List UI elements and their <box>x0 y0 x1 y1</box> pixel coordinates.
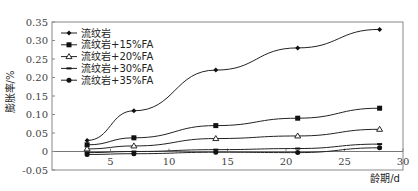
legend-label: 流纹岩+35%FA <box>81 74 153 86</box>
y-tick-label: 0 <box>42 146 48 157</box>
y-tick-label: 0.10 <box>26 109 48 120</box>
legend-item: 流纹岩+15%FA <box>61 38 153 50</box>
y-tick-label: 0.35 <box>26 17 48 28</box>
x-tick-label: 10 <box>163 156 176 167</box>
series-line <box>84 126 383 151</box>
y-tick-label: -0.05 <box>22 165 48 176</box>
expansion-rate-chart: 0.350.300.250.200.150.100.050-0.05 51015… <box>0 0 418 191</box>
x-tick-label: 25 <box>338 156 351 167</box>
legend-label: 流纹岩 <box>81 27 111 39</box>
legend-label: 流纹岩+30%FA <box>81 62 153 74</box>
x-axis-label: 龄期/d <box>370 172 400 184</box>
x-tick-label: 20 <box>280 156 293 167</box>
legend: 流纹岩流纹岩+15%FA流纹岩+20%FA流纹岩+30%FA流纹岩+35%FA <box>61 27 153 86</box>
y-tick-label: 0.25 <box>26 54 48 65</box>
legend-item: 流纹岩 <box>61 27 111 39</box>
y-tick-label: 0.20 <box>26 72 48 83</box>
x-tick-label: 30 <box>397 156 410 167</box>
y-axis-ticks: 0.350.300.250.200.150.100.050-0.05 <box>22 17 55 176</box>
y-tick-label: 0.15 <box>26 91 48 102</box>
y-axis-label: 膨胀率/% <box>4 71 16 114</box>
y-tick-label: 0.30 <box>26 35 48 46</box>
legend-label: 流纹岩+20%FA <box>81 50 153 62</box>
x-tick-label: 15 <box>221 156 234 167</box>
series-line <box>85 106 383 148</box>
legend-item: 流纹岩+30%FA <box>61 62 153 74</box>
x-tick-label: 5 <box>107 156 113 167</box>
legend-label: 流纹岩+15%FA <box>81 38 153 50</box>
legend-item: 流纹岩+20%FA <box>61 50 153 62</box>
y-tick-label: 0.05 <box>26 128 48 139</box>
legend-item: 流纹岩+35%FA <box>61 74 153 86</box>
